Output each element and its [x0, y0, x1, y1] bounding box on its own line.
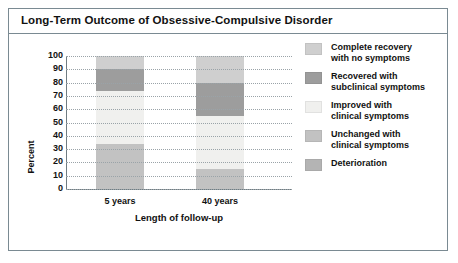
x-axis-title: Length of follow-up: [66, 212, 292, 223]
gridline-2: [66, 83, 292, 84]
figure-title: Long-Term Outcome of Obsessive-Compulsiv…: [21, 14, 333, 26]
bar-segment: [96, 144, 144, 189]
gridline-3: [66, 96, 292, 97]
legend-item-label: Complete recovery with no symptoms: [331, 42, 445, 64]
figure-panel: Long-Term Outcome of Obsessive-Compulsiv…: [8, 8, 448, 251]
y-tick-label-8: 20: [37, 157, 63, 166]
y-tick-label-6: 40: [37, 131, 63, 140]
legend-swatch-icon: [305, 72, 322, 84]
legend-item-label: Deterioration: [331, 158, 445, 169]
legend-swatch-icon: [305, 130, 322, 142]
y-tick-label-4: 60: [37, 104, 63, 113]
gridline-8: [66, 162, 292, 163]
axes: 5 years 40 years Length of follow-up: [66, 34, 292, 251]
legend-swatch-icon: [305, 101, 322, 113]
legend-item-label: Recovered with subclinical symptoms: [331, 71, 445, 93]
y-tick-label-7: 30: [37, 144, 63, 153]
bar-segment: [196, 116, 244, 169]
legend-item-label: Unchanged with clinical symptoms: [331, 129, 445, 151]
gridline-4: [66, 109, 292, 110]
gridline-1: [66, 69, 292, 70]
legend-item: Recovered with subclinical symptoms: [305, 71, 445, 93]
legend-swatch-icon: [305, 159, 322, 171]
bar-segment: [96, 69, 144, 90]
y-tick-label-5: 50: [37, 118, 63, 127]
legend-item: Unchanged with clinical symptoms: [305, 129, 445, 151]
y-tick-label-2: 80: [37, 78, 63, 87]
y-tick-label-3: 70: [37, 91, 63, 100]
y-tick-label-1: 90: [37, 64, 63, 73]
gridline-10: [66, 189, 292, 190]
legend-item: Deterioration: [305, 158, 445, 180]
legend-item: Complete recovery with no symptoms: [305, 42, 445, 64]
gridline-0: [66, 56, 292, 57]
y-tick-label-0: 100: [37, 51, 63, 60]
y-axis-tick-labels: 1009080706050403020100: [37, 34, 63, 251]
bar-segment: [196, 83, 244, 116]
legend-item-label: Improved with clinical symptoms: [331, 100, 445, 122]
y-tick-label-10: 0: [37, 184, 63, 193]
x-tick-label-0: 5 years: [75, 196, 165, 206]
gridline-7: [66, 149, 292, 150]
gridline-6: [66, 136, 292, 137]
legend-item: Improved with clinical symptoms: [305, 100, 445, 122]
y-axis-title: Percent: [26, 127, 36, 187]
x-tick-label-1: 40 years: [175, 196, 265, 206]
bar-segment: [96, 56, 144, 69]
bar-segment: [196, 169, 244, 189]
gridline-9: [66, 176, 292, 177]
legend-swatch-icon: [305, 43, 322, 55]
gridline-5: [66, 123, 292, 124]
chart-legend: Complete recovery with no symptomsRecove…: [305, 42, 445, 187]
y-tick-label-9: 10: [37, 171, 63, 180]
figure-title-bar: Long-Term Outcome of Obsessive-Compulsiv…: [9, 9, 447, 34]
